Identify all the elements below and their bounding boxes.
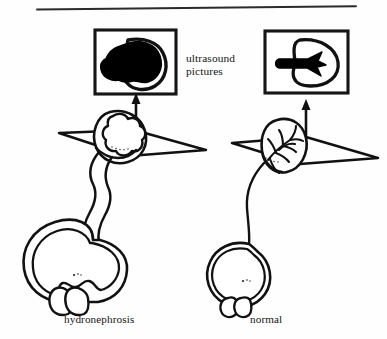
ultrasound-pictures-label: ultrasound pictures	[186, 52, 235, 79]
header-rule	[37, 6, 356, 9]
bladder-outlet-normal-right	[234, 297, 251, 317]
ureter-normal	[247, 163, 264, 244]
caption-hydronephrosis: hydronephrosis	[64, 313, 134, 326]
urinary-tract-diagram	[0, 0, 387, 339]
us-dilated-lobe	[101, 58, 129, 81]
ultrasound-frame-hydronephrosis	[95, 30, 176, 94]
panel-hydronephrosis	[24, 30, 206, 315]
bladder-inner-wall-hydronephrosis	[33, 229, 119, 295]
ureter-hydronephrosis-inner	[98, 157, 112, 243]
caption-normal: normal	[250, 313, 282, 326]
figure-canvas: ultrasound pictures hydronephrosis norma…	[0, 0, 387, 339]
bladder-inner-wall-normal	[212, 248, 265, 301]
ultrasound-frame-normal	[265, 31, 348, 93]
bladder-outlet2-hydronephrosis	[65, 288, 88, 315]
